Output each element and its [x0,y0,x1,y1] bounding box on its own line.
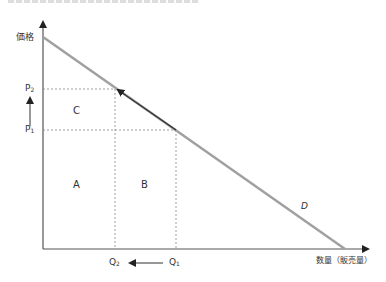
movement-arrow [118,90,176,130]
x-axis-label: 数量（販売量） [316,257,372,265]
p2-sub: 2 [30,86,34,93]
q2-sub: 2 [116,260,120,267]
q1-label: Q1 [169,258,180,267]
p1-label: P1 [25,125,34,134]
region-b-label: B [141,180,148,190]
p1-sub: 1 [30,127,34,134]
guide-lines [43,89,176,249]
q1-sub: 1 [176,260,180,267]
demand-label: D [301,202,308,211]
region-a-label: A [73,180,80,190]
demand-diagram [0,0,386,282]
p2-label: P2 [25,84,34,93]
y-axis-label: 価格 [16,33,34,42]
demand-curve [43,37,345,249]
q2-label: Q2 [109,258,120,267]
region-c-label: C [73,106,80,116]
